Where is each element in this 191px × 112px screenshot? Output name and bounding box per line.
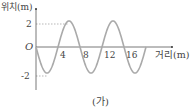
origin-label: O (25, 42, 33, 52)
x-tick-12: 12 (104, 50, 115, 60)
figure-caption: (가) (92, 97, 109, 107)
x-tick-8: 8 (83, 50, 89, 60)
x-axis-label: 거리(m) (155, 50, 189, 60)
y-tick-neg2: -2 (21, 71, 30, 81)
x-axis-arrow (171, 46, 173, 48)
y-axis-arrow (35, 8, 37, 10)
y-tick-2: 2 (26, 19, 32, 29)
x-tick-16: 16 (126, 50, 137, 60)
x-tick-4: 4 (60, 50, 66, 60)
y-axis-label: 위치(m) (1, 2, 33, 12)
